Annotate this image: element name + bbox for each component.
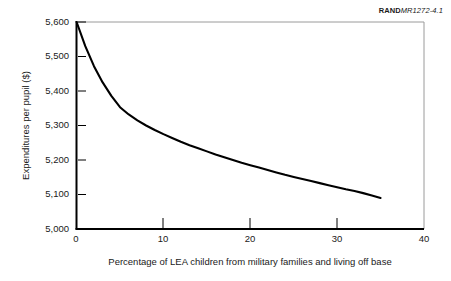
y-tick-label-5500: 5,500 <box>29 50 69 61</box>
figure-container: RANDMR1272-4.1 <box>0 0 451 281</box>
y-tick-marks <box>78 22 86 195</box>
y-tick-label-5300: 5,300 <box>29 119 69 130</box>
y-tick-label-5200: 5,200 <box>29 154 69 165</box>
data-series-line <box>77 22 381 198</box>
x-tick-label-20: 20 <box>235 233 265 244</box>
y-tick-label-5400: 5,400 <box>29 85 69 96</box>
x-tick-label-30: 30 <box>322 233 352 244</box>
y-axis-title: Expenditures per pupil ($) <box>18 22 34 229</box>
x-tick-label-40: 40 <box>409 233 439 244</box>
y-tick-label-5600: 5,600 <box>29 16 69 27</box>
x-tick-label-10: 10 <box>148 233 178 244</box>
x-tick-label-0: 0 <box>61 233 91 244</box>
y-tick-label-5100: 5,100 <box>29 188 69 199</box>
x-axis-title: Percentage of LEA children from military… <box>76 256 424 268</box>
plot-area: 5,600 5,500 5,400 5,300 5,200 5,100 5,00… <box>0 0 451 281</box>
x-tick-marks <box>163 218 337 228</box>
